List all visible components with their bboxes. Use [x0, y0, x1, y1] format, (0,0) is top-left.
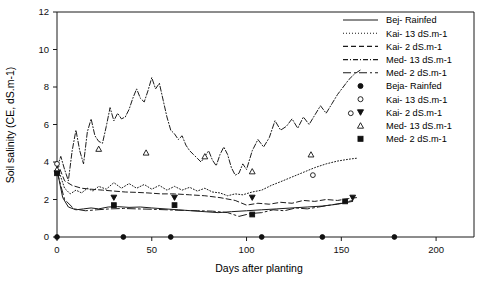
marker-point-0 [168, 235, 173, 240]
legend: Bej- RainfedKai- 13 dS.m-1Kai- 2 dS.m-1M… [343, 15, 452, 144]
x-tick-label: 200 [428, 244, 444, 255]
legend-line-label-0: Bej- Rainfed [386, 15, 437, 25]
legend-marker-sample-2 [357, 110, 363, 115]
series-lines [57, 70, 360, 216]
chart-page: 024681012 050100150200 Bej- RainfedKai- … [0, 0, 488, 284]
y-axis: 024681012 [38, 6, 57, 242]
x-tick-label: 150 [333, 244, 349, 255]
marker-point-3 [96, 146, 102, 151]
legend-marker-label-1: Kai- 13 dS.m-1 [386, 95, 447, 105]
legend-line-label-2: Kai- 2 dS.m-1 [386, 42, 442, 52]
x-tick-label: 0 [54, 244, 59, 255]
legend-marker-label-0: Beja- Rainfed [386, 81, 442, 91]
marker-point-0 [55, 235, 60, 240]
marker-point-0 [392, 235, 397, 240]
x-tick-label: 50 [146, 244, 157, 255]
y-tick-label: 4 [44, 156, 49, 167]
marker-point-0 [320, 235, 325, 240]
y-tick-label: 0 [44, 231, 49, 242]
marker-point-3 [249, 169, 255, 174]
marker-point-0 [259, 235, 264, 240]
y-tick-label: 6 [44, 119, 49, 130]
legend-marker-sample-0 [358, 83, 363, 88]
y-tick-label: 12 [38, 6, 49, 17]
legend-marker-label-4: Med- 2 dS.m-1 [386, 134, 447, 144]
legend-marker-sample-4 [358, 136, 363, 141]
x-axis-title: Days after planting [215, 262, 303, 274]
y-tick-label: 2 [44, 194, 49, 205]
marker-point-4 [343, 199, 348, 204]
legend-line-label-4: Med- 2 dS.m-1 [386, 68, 447, 78]
legend-marker-label-2: Kai- 2 dS.m-1 [386, 108, 442, 118]
x-tick-label: 100 [239, 244, 255, 255]
legend-marker-sample-1 [358, 97, 363, 102]
legend-marker-label-3: Med- 13 dS.m-1 [386, 121, 452, 131]
x-axis: 050100150200 [54, 237, 474, 255]
marker-point-1 [348, 111, 353, 116]
marker-point-4 [172, 203, 177, 208]
legend-line-label-1: Kai- 13 dS.m-1 [386, 29, 447, 39]
marker-point-4 [55, 171, 60, 176]
series-line-3 [57, 70, 360, 181]
soil-salinity-chart: 024681012 050100150200 Bej- RainfedKai- … [0, 0, 488, 284]
marker-point-1 [310, 173, 315, 178]
legend-line-label-3: Med- 13 dS.m-1 [386, 55, 452, 65]
series-line-0 [57, 170, 353, 213]
marker-point-4 [111, 203, 116, 208]
marker-point-1 [55, 161, 60, 166]
marker-point-4 [250, 212, 255, 217]
marker-point-0 [121, 235, 126, 240]
marker-point-2 [172, 195, 178, 200]
marker-point-2 [249, 195, 255, 200]
legend-marker-sample-3 [357, 123, 363, 128]
marker-point-3 [143, 150, 149, 155]
marker-point-3 [308, 152, 314, 157]
marker-point-3 [202, 154, 208, 159]
y-tick-label: 8 [44, 81, 49, 92]
marker-point-2 [111, 195, 117, 200]
series-line-4 [57, 171, 353, 216]
y-axis-title: Soil salinity (CE, dS.m-1) [4, 67, 16, 184]
y-tick-label: 10 [38, 44, 49, 55]
